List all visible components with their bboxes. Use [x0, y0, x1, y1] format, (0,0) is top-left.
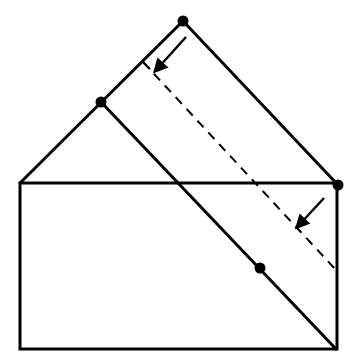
solid-lines: [20, 21, 338, 349]
folding-diagram: [0, 0, 348, 358]
apex-dot: [178, 16, 189, 27]
crease-dot: [255, 263, 266, 274]
right-corner-dot: [333, 180, 344, 191]
dashed-fold-line: [143, 62, 336, 270]
fold-dashed-line: [143, 62, 336, 270]
fold-arrows: [158, 37, 324, 224]
diagonal-crease-line: [101, 102, 336, 349]
base-rectangle: [20, 183, 337, 349]
left-dot: [96, 97, 107, 108]
flap-right-edge-line: [183, 21, 338, 185]
fold-arrow-bottom-icon: [300, 198, 324, 224]
fold-line-start-tick: [143, 62, 150, 69]
rectangle-outline: [20, 183, 337, 349]
